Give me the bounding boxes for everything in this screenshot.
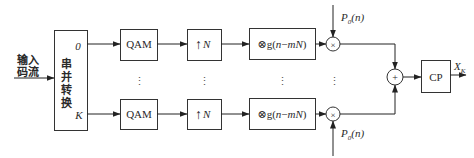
upsample-arrow-icon: ↑ [195,37,202,52]
sp-port-top-label: 0 [75,40,81,52]
upsample-factor: N [202,108,211,120]
sp-char-1: 串 [61,57,72,71]
ellipsis-qam: ⋮ [134,75,145,87]
cp-label: CP [429,71,442,83]
carrier-label: P0(n) [340,11,364,26]
input-stream: 输入 码流 [14,53,54,79]
ellipsis-filter: ⋮ [277,75,288,87]
mixer-to-summer-arrow [340,44,395,69]
ellipsis-mixer: ⋮ [329,75,340,87]
serial-parallel-converter: 串 并 转 换 0 K [55,31,88,131]
summer: + [387,69,421,85]
qam-label: QAM [126,38,152,50]
upsample-arrow-icon: ↑ [195,107,202,122]
branch-top: QAM ↑ N ⊗g(n−mN) × P0(n) [87,5,395,69]
sp-char-4: 换 [61,96,73,110]
upsample-factor: N [202,38,211,50]
sp-port-bottom-label: K [74,109,83,121]
sp-char-3: 转 [61,83,72,97]
multiply-icon: × [330,110,335,120]
pulse-filter-label: ⊗g(n−mN) [257,38,306,51]
input-label-line1: 输入 [17,53,39,67]
carrier-label: P0(n) [340,127,364,142]
output-label: XK [453,60,466,75]
multiply-icon: × [330,40,335,50]
cyclic-prefix-block: CP XK [422,60,467,93]
branch-ellipsis: ⋮ ⋮ ⋮ ⋮ [134,75,340,87]
ofdm-transmitter-block-diagram: 输入 码流 串 并 转 换 0 K QAM ↑ N ⊗g(n−mN) × P0(… [0,0,474,158]
plus-icon: + [392,72,398,83]
ellipsis-upsample: ⋮ [199,75,210,87]
pulse-filter-label: ⊗g(n−mN) [257,108,306,121]
sp-char-2: 并 [61,70,72,84]
qam-label: QAM [126,108,152,120]
input-label-line2: 码流 [17,65,39,79]
branch-bottom: QAM ↑ N ⊗g(n−mN) × P0(n) [87,85,395,156]
mixer-to-summer-arrow [340,85,395,114]
